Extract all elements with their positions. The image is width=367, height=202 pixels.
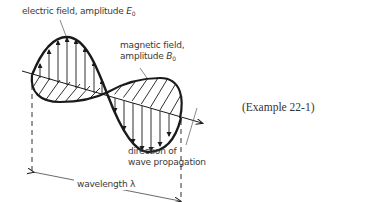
direction-label: direction of wave propagation: [128, 146, 206, 168]
electric-subscript: 0: [132, 10, 136, 17]
em-wave-figure: electric field, amplitude E0 magnetic fi…: [0, 0, 367, 202]
magnetic-field-label: magnetic field, amplitude B0: [120, 40, 184, 64]
direction-leader-line: [186, 108, 197, 145]
magnetic-leader-line: [140, 68, 147, 78]
wavelength-label: wavelength λ: [77, 179, 135, 190]
electric-field-label: electric field, amplitude E0: [22, 6, 135, 19]
magnetic-wave: [32, 75, 182, 118]
electric-leader-line: [60, 20, 66, 36]
direction-label-line1: direction of: [128, 146, 206, 157]
figure-caption: (Example 22-1): [242, 101, 315, 113]
magnetic-subscript: 0: [172, 55, 176, 62]
magnetic-label-line2: amplitude B0: [120, 51, 184, 64]
direction-label-line2: wave propagation: [128, 157, 206, 168]
magnetic-label-line1: magnetic field,: [120, 40, 184, 51]
